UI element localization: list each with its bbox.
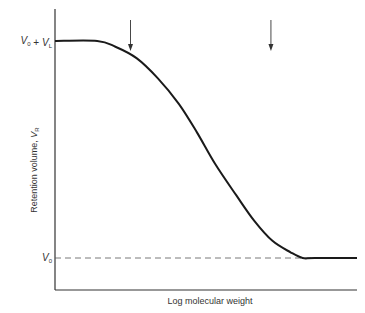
- tick-op: +: [31, 37, 42, 48]
- tick-sub: L: [49, 43, 53, 49]
- x-axis-label: Log molecular weight: [167, 296, 253, 306]
- series-line-calibration-curve: [55, 41, 357, 259]
- tick-sub: 0: [49, 258, 53, 264]
- annotation-arrow-1: [128, 20, 133, 51]
- arrow-down-icon: [128, 44, 133, 51]
- arrow-down-icon: [268, 44, 273, 51]
- chart: V0 + VLV0 Log molecular weight Retention…: [0, 0, 365, 313]
- y-tick-label-v0: V0: [42, 252, 53, 264]
- y-tick-label-v0-plus-vl: V0 + VL: [21, 35, 53, 49]
- annotation-arrow-2: [268, 20, 273, 51]
- y-axis-label: Retention volume, VR: [29, 127, 40, 213]
- y-axis-label-sub: R: [34, 127, 40, 132]
- y-axis-label-main: Retention volume,: [29, 138, 39, 213]
